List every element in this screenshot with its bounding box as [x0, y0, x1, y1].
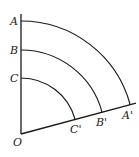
- arc-a: [21, 21, 130, 105]
- label-c-prime: C': [70, 123, 81, 136]
- label-b-prime: B': [95, 116, 107, 129]
- label-b: B: [9, 44, 18, 57]
- label-c: C: [10, 72, 19, 85]
- label-a-prime: A': [121, 109, 133, 122]
- arc-b: [21, 50, 102, 112]
- label-a: A: [9, 15, 18, 28]
- sector-diagram: A B C O A' B' C': [0, 0, 139, 157]
- arc-c: [21, 78, 75, 120]
- label-o: O: [13, 136, 22, 149]
